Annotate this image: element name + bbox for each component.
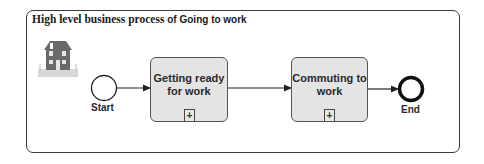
task-label: Commuting to work [292, 72, 367, 98]
house-icon [38, 41, 78, 77]
subprocess-expand-icon[interactable]: + [184, 109, 195, 121]
start-event-label: Start [91, 102, 114, 113]
task-getting-ready[interactable]: Getting ready for work + [150, 57, 228, 122]
end-event[interactable] [400, 78, 423, 101]
subprocess-expand-icon[interactable]: + [324, 109, 335, 121]
diagram-canvas [0, 0, 484, 164]
task-label: Getting ready for work [151, 72, 227, 98]
end-event-label: End [401, 104, 420, 115]
start-event[interactable] [92, 76, 117, 101]
task-commuting[interactable]: Commuting to work + [291, 57, 368, 122]
